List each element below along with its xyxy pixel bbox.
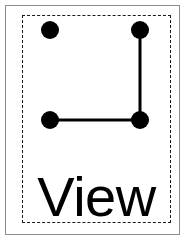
node-bottom-right bbox=[131, 111, 149, 129]
view-icon-card[interactable]: View bbox=[0, 0, 188, 246]
card-caption: View bbox=[22, 160, 171, 223]
node-bottom-left bbox=[41, 111, 59, 129]
node-top-left bbox=[41, 21, 59, 39]
card-caption-label: View bbox=[37, 169, 155, 225]
node-top-right bbox=[131, 21, 149, 39]
